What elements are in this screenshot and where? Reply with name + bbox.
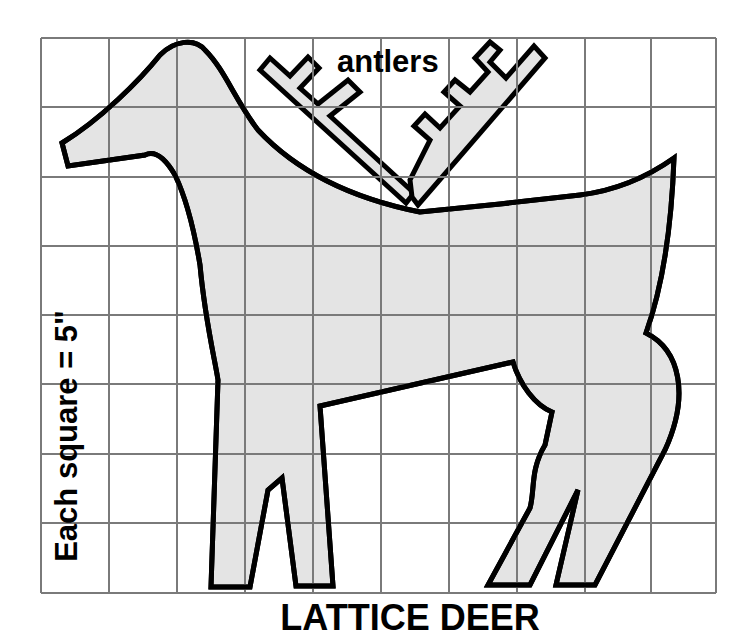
diagram-title: LATTICE DEER <box>0 600 749 636</box>
lattice-deer-pattern <box>0 0 749 638</box>
antlers-label: antlers <box>337 46 439 77</box>
scale-note: Each square = 5" <box>51 310 82 562</box>
